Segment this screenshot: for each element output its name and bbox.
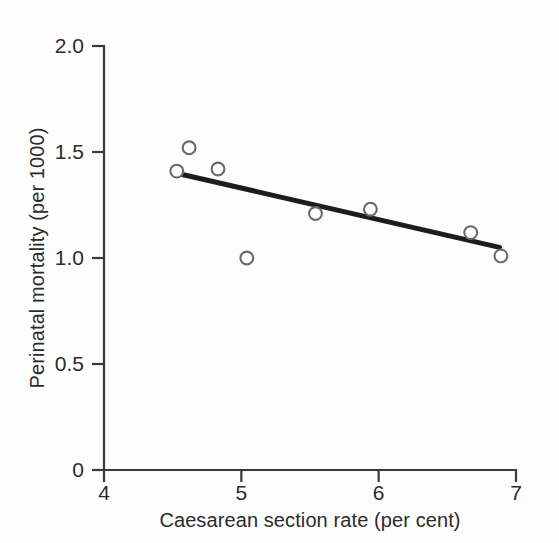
x-axis-title: Caesarean section rate (per cent) — [159, 509, 460, 531]
y-tick-label: 2.0 — [55, 34, 84, 57]
data-point-marker — [183, 141, 196, 154]
data-point-marker — [464, 226, 477, 239]
y-tick-label: 0 — [72, 458, 84, 481]
data-point-marker — [212, 163, 225, 176]
scatter-plot: 00.51.01.52.0 4567 Caesarean section rat… — [0, 0, 559, 543]
data-point-marker — [309, 207, 322, 220]
y-axis-title: Perinatal mortality (per 1000) — [26, 128, 48, 389]
y-tick-label: 1.0 — [55, 246, 84, 269]
data-point-marker — [364, 203, 377, 216]
x-tick-label: 7 — [510, 481, 522, 504]
y-tick-label: 1.5 — [55, 140, 84, 163]
x-tick-label: 6 — [373, 481, 385, 504]
data-point-marker — [495, 250, 508, 263]
figure-root: 00.51.01.52.0 4567 Caesarean section rat… — [0, 0, 559, 543]
data-point-marker — [170, 165, 183, 178]
data-point-marker — [240, 252, 253, 265]
x-tick-label: 5 — [235, 481, 247, 504]
x-tick-label: 4 — [98, 481, 110, 504]
y-tick-label: 0.5 — [55, 352, 84, 375]
